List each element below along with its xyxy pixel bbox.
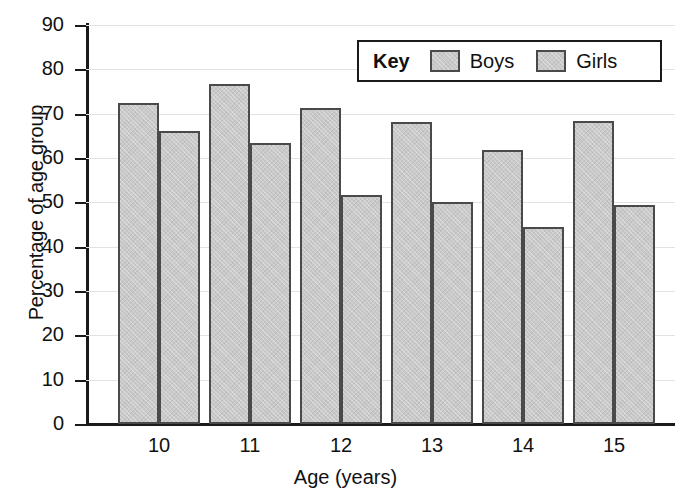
legend-swatch-icon [536,50,566,72]
bar-girls-11 [250,143,291,424]
y-axis-tick [75,424,86,426]
y-axis-tick [75,25,86,27]
bar-chart: Percentage of age group 0102030405060708… [0,0,691,497]
bar-girls-13 [432,202,473,424]
legend-title: Key [373,50,410,73]
bar-boys-13 [391,122,432,424]
x-axis-title: Age (years) [0,466,691,489]
y-axis-tick-label: 50 [18,191,64,211]
y-axis-tick-label: 20 [18,324,64,344]
y-axis-tick [75,291,86,293]
bar-boys-15 [573,121,614,424]
y-axis-tick [75,69,86,71]
gridline [86,25,675,26]
y-axis-tick [75,247,86,249]
legend-entry-girls: Girls [536,50,617,73]
gridline [86,114,675,115]
legend-entry-boys: Boys [430,50,514,73]
y-axis-tick-label: 0 [18,413,64,433]
x-axis-tick-label: 12 [306,434,376,457]
bar-boys-12 [300,108,341,424]
y-axis-tick [75,202,86,204]
legend-swatch-icon [430,50,460,72]
x-axis-tick-label: 15 [579,434,649,457]
y-axis-tick-label: 90 [18,14,64,34]
legend-label-girls: Girls [576,50,617,73]
y-axis-tick-label: 30 [18,280,64,300]
bar-girls-12 [341,195,382,424]
y-axis-tick-label: 80 [18,58,64,78]
bar-boys-14 [482,150,523,424]
x-axis-tick-label: 10 [124,434,194,457]
y-axis-tick-group: 0102030405060708090 [0,0,86,497]
bar-boys-10 [118,103,159,424]
y-axis-tick [75,380,86,382]
y-axis-tick-label: 10 [18,369,64,389]
bar-girls-15 [614,205,655,424]
x-axis-tick-label: 13 [397,434,467,457]
y-axis-tick-label: 70 [18,103,64,123]
y-axis-tick [75,335,86,337]
legend: Key Boys Girls [357,40,662,82]
bar-girls-14 [523,227,564,424]
plot-area [86,25,675,424]
y-axis-tick [75,158,86,160]
bar-girls-10 [159,131,200,424]
x-axis-tick-label: 14 [488,434,558,457]
legend-label-boys: Boys [470,50,514,73]
bar-boys-11 [209,84,250,424]
y-axis-tick [75,114,86,116]
y-axis-tick-label: 60 [18,147,64,167]
y-axis-tick-label: 40 [18,236,64,256]
x-axis-tick-label: 11 [215,434,285,457]
